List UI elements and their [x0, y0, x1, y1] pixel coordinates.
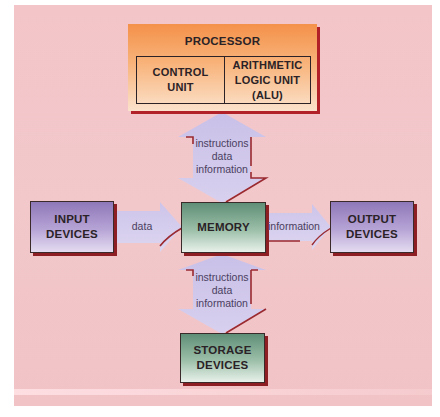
output-devices-line-2: DEVICES	[346, 227, 398, 242]
control-unit-line-2: UNIT	[153, 80, 209, 95]
memory-label: MEMORY	[197, 220, 250, 235]
arrow-label-instructions: instructions	[190, 137, 254, 150]
output-devices-line-1: OUTPUT	[346, 212, 398, 227]
arrow-label-data: data	[190, 150, 254, 163]
alu-unit: ARITHMETIC LOGIC UNIT (ALU)	[225, 57, 310, 103]
storage-devices-line-1: STORAGE	[193, 343, 251, 358]
memory-storage-arrow-label: instructions data information	[190, 271, 254, 310]
output-devices-box: OUTPUT DEVICES	[330, 201, 414, 253]
processor-memory-arrow-label: instructions data information	[190, 137, 254, 176]
storage-devices-box: STORAGE DEVICES	[180, 333, 265, 383]
memory-box: MEMORY	[181, 202, 266, 253]
processor-components: CONTROL UNIT ARITHMETIC LOGIC UNIT (ALU)	[136, 56, 311, 104]
output-arrow-label: information	[266, 220, 322, 233]
arrow-label-instructions: instructions	[190, 271, 254, 284]
storage-devices-line-2: DEVICES	[193, 358, 251, 373]
input-arrow-label: data	[124, 220, 160, 233]
control-unit-line-1: CONTROL	[153, 65, 209, 80]
processor-box: PROCESSOR CONTROL UNIT ARITHMETIC LOGIC …	[128, 24, 317, 111]
arrow-label-information: information	[190, 163, 254, 176]
arrow-label-data: data	[190, 284, 254, 297]
alu-line-1: ARITHMETIC	[225, 58, 310, 73]
input-devices-line-2: DEVICES	[46, 227, 98, 242]
control-unit: CONTROL UNIT	[137, 57, 225, 103]
arrow-label-information: information	[190, 297, 254, 310]
alu-line-2: LOGIC UNIT (ALU)	[225, 73, 310, 103]
input-devices-box: INPUT DEVICES	[30, 201, 114, 253]
processor-title: PROCESSOR	[128, 34, 317, 49]
input-devices-line-1: INPUT	[46, 212, 98, 227]
